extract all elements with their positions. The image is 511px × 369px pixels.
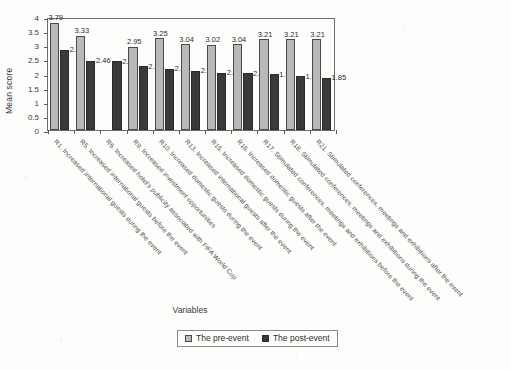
bar-group: 3.211.97 — [257, 19, 283, 130]
bar-pre-event — [181, 44, 190, 130]
y-axis-tick-label: 3 — [35, 43, 39, 51]
bar-value-label: 3.04 — [179, 36, 194, 44]
bar-group: 3.042.1 — [179, 19, 205, 130]
legend-item-post-event: The post-event — [262, 333, 330, 343]
bar-value-label: 1.85 — [332, 74, 347, 82]
y-axis-title: Mean score — [2, 36, 16, 146]
x-axis-category-label: R17. Stimulated conferences, meetings an… — [262, 138, 415, 302]
plot-area: 00.511.522.533.543.792.843.332.462.432.9… — [47, 18, 335, 131]
bar-value-label: 3.25 — [153, 30, 168, 38]
x-axis-tick — [310, 130, 311, 134]
bar-pre-event — [50, 23, 59, 130]
x-axis-tick — [74, 130, 75, 134]
x-axis-category-label: R10. Increased domestic guests during th… — [158, 138, 264, 251]
bar-group: 3.252.17 — [153, 19, 179, 130]
bar-group: 3.211.91 — [284, 19, 310, 130]
bar-pre-event — [155, 38, 164, 130]
x-axis-category-label: R9. Increased investment opportunities — [131, 138, 217, 229]
y-axis-tick-label: 3.5 — [28, 29, 39, 37]
x-axis-category-label: R16. Increased domestic guests after the… — [236, 138, 338, 247]
x-axis-title: Variables — [0, 305, 380, 315]
bar-post-event — [270, 74, 279, 130]
y-axis-tick-label: 0 — [35, 128, 39, 136]
y-axis-tick-label: 0.5 — [28, 114, 39, 122]
legend-item-pre-event: The pre-event — [185, 333, 249, 343]
y-axis-tick-label: 2.5 — [28, 57, 39, 65]
legend-label-pre-event: The pre-event — [196, 333, 249, 343]
y-axis-tick-label: 2 — [35, 72, 39, 80]
x-axis-category-label: R5. Increased international guests befor… — [79, 138, 190, 256]
legend-swatch-pre-event — [185, 335, 192, 342]
bar-post-event — [296, 76, 305, 130]
x-axis-tick — [127, 130, 128, 134]
x-axis-tick — [231, 130, 232, 134]
bar-value-label: 3.02 — [205, 36, 220, 44]
bar-post-event — [60, 50, 69, 130]
bar-group: 3.022.02 — [205, 19, 231, 130]
plot-inner: 00.511.522.533.543.792.843.332.462.432.9… — [48, 19, 334, 130]
bar-post-event — [243, 73, 252, 130]
x-axis-tick — [284, 130, 285, 134]
bar-pre-event — [128, 47, 137, 130]
x-axis-category-label: R18. Stimulated conferences, meetings an… — [289, 138, 442, 302]
x-axis-category-label: R13. Increased international guests afte… — [184, 138, 293, 255]
bar-chart: Mean score 00.511.522.533.543.792.843.33… — [0, 0, 511, 369]
bar-pre-event — [286, 39, 295, 130]
bar-group: 2.952.26 — [127, 19, 153, 130]
bar-post-event — [139, 66, 148, 130]
x-axis-tick — [48, 130, 49, 134]
x-axis-category-label: R1. Increased international guests durin… — [53, 138, 163, 256]
bar-pre-event — [259, 39, 268, 130]
legend-label-post-event: The post-event — [273, 333, 330, 343]
x-axis-tick — [257, 130, 258, 134]
chart-legend: The pre-event The post-event — [177, 330, 338, 347]
x-axis-category-label: R21. Stimulated conferences, meetings an… — [315, 138, 465, 298]
bar-value-label: 3.33 — [75, 27, 90, 35]
y-axis-tick-label: 1 — [35, 100, 39, 108]
bar-value-label: 3.21 — [258, 31, 273, 39]
bar-value-label: 3.04 — [232, 36, 247, 44]
bar-group: 2.43 — [100, 19, 126, 130]
bar-group: 3.211.85 — [310, 19, 336, 130]
x-axis-tick — [205, 130, 206, 134]
bar-value-label: 3.21 — [284, 31, 299, 39]
y-axis-tick-label: 4 — [35, 15, 39, 23]
bar-group: 3.332.46 — [74, 19, 100, 130]
bar-pre-event — [312, 39, 321, 130]
x-axis-tick — [100, 130, 101, 134]
x-axis-tick — [179, 130, 180, 134]
x-axis-category-label: R6. Increased hotel's publicity associat… — [105, 138, 239, 281]
bar-post-event — [112, 61, 121, 130]
bar-post-event — [322, 78, 331, 130]
x-axis-category-label: R15. Increased domestic guests during th… — [210, 138, 316, 251]
bar-post-event — [86, 61, 95, 130]
bar-post-event — [191, 71, 200, 130]
bar-post-event — [165, 69, 174, 130]
bar-pre-event — [233, 44, 242, 130]
bar-value-label: 2.95 — [127, 38, 142, 46]
bar-pre-event — [207, 45, 216, 130]
bar-value-label: 3.21 — [310, 31, 325, 39]
bar-pre-event — [76, 36, 85, 130]
x-axis-tick — [153, 130, 154, 134]
bar-group: 3.042.01 — [231, 19, 257, 130]
y-axis-tick-label: 1.5 — [28, 86, 39, 94]
legend-swatch-post-event — [262, 335, 269, 342]
bar-value-label: 3.79 — [48, 14, 63, 22]
x-axis-tick — [336, 130, 337, 134]
bar-post-event — [217, 73, 226, 130]
bar-group: 3.792.84 — [48, 19, 74, 130]
